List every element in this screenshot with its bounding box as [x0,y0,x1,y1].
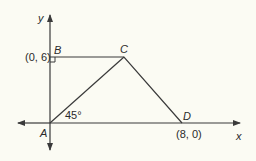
y-axis-label: y [38,13,44,24]
point-d-label: D [183,111,191,122]
right-angle-marker [50,57,55,62]
coordinate-diagram [0,0,256,161]
angle-label: 45° [65,110,82,121]
point-b-label: B [54,45,61,56]
x-axis-label: x [236,131,242,142]
point-c-label: C [120,44,128,55]
point-a-label: A [40,128,47,139]
segment-ac [50,57,124,123]
point-b-coord: (0, 6) [25,52,51,63]
point-d-coord: (8, 0) [176,129,202,140]
